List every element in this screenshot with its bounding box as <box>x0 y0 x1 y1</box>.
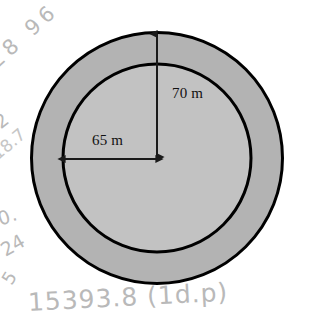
figure-canvas: 70 m 65 m 28 96 .2 18.7 0. 24 5 15393.8 … <box>0 0 310 333</box>
inner-radius-label: 65 m <box>92 132 123 149</box>
outer-radius-label: 70 m <box>172 85 203 102</box>
annulus-figure <box>0 0 310 333</box>
